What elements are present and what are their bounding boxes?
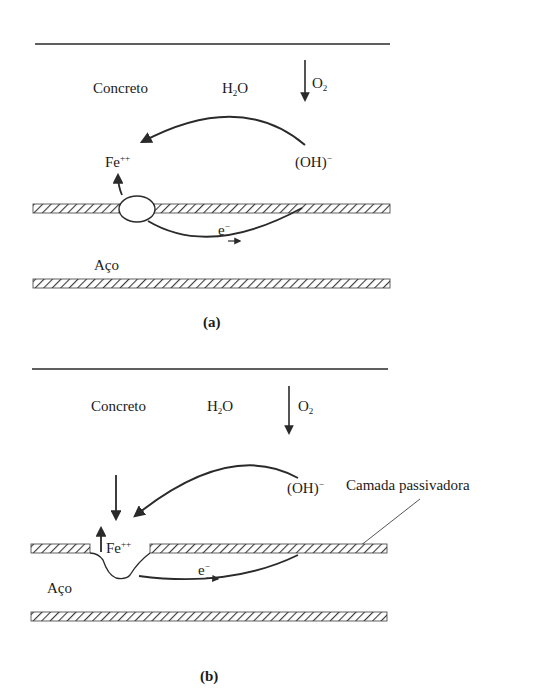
iron-release-arrow [118, 175, 122, 195]
hydroxide-label: (OH)− [287, 479, 324, 497]
hydroxide-label: (OH)− [295, 153, 332, 171]
rebar-bottom-hatch [33, 279, 390, 288]
corrosion-diagram: Concreto H2O O2 (OH)− Fe++ e− Aço (a) Co… [0, 0, 547, 698]
corrosion-pit-profile [90, 553, 150, 579]
caption-a: (a) [203, 314, 221, 331]
electron-label: e− [198, 561, 210, 578]
oxygen-label: O2 [298, 398, 313, 416]
rebar-top-hatch-right [150, 544, 387, 553]
passive-layer-label: Camada passivadora [346, 477, 470, 493]
caption-b: (b) [200, 668, 218, 685]
hydroxide-flow-arrow [142, 117, 305, 145]
oxygen-label: O2 [312, 75, 327, 93]
rebar-bottom-hatch [31, 612, 387, 621]
rebar-top-hatch [33, 204, 390, 213]
steel-label: Aço [47, 580, 72, 596]
water-label: H2O [207, 398, 233, 416]
figure-a: Concreto H2O O2 (OH)− Fe++ e− Aço (a) [33, 44, 390, 331]
concrete-label: Concreto [93, 80, 148, 96]
corrosion-pit [119, 196, 155, 222]
hydroxide-flow-arrow [135, 465, 298, 516]
electron-flow-path [139, 555, 298, 579]
rebar-top-hatch-left [31, 544, 90, 553]
concrete-label: Concreto [91, 398, 146, 414]
steel-label: Aço [94, 257, 119, 273]
figure-b: Concreto H2O O2 (OH)− Camada passivadora… [31, 369, 470, 685]
iron-ion-label: Fe++ [106, 539, 131, 556]
iron-ion-label: Fe++ [105, 153, 130, 170]
passive-layer-leader-line [360, 499, 420, 546]
water-label: H2O [222, 80, 248, 98]
